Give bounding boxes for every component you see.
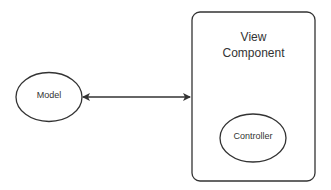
component-label: Component	[192, 46, 315, 60]
controller-label: Controller	[220, 131, 286, 141]
model-label: Model	[16, 90, 82, 100]
view-label: View	[192, 30, 315, 44]
